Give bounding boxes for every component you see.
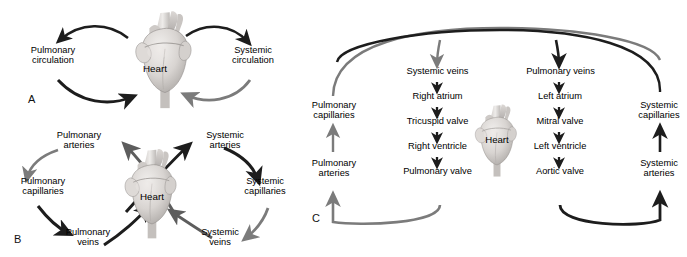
arrow-heart-to-systemic-circulation — [186, 27, 248, 42]
arrow-systemic-circulation-to-heart — [186, 80, 250, 100]
label-pulmonary-capillaries-b: Pulmonary capillaries — [0, 176, 86, 197]
label-aortic-valve: Aortic valve — [509, 166, 611, 176]
arc-pulmonary-capillaries-up — [333, 28, 660, 96]
label-pulmonary-veins-c: Pulmonary veins — [508, 66, 613, 76]
label-pulmonary-circulation: Pulmonary circulation — [8, 45, 98, 66]
heart-label-a: Heart — [125, 64, 185, 74]
label-systemic-arteries-b: Systemic arteries — [184, 130, 266, 151]
arrow-heart-to-pulmonary-arteries — [126, 146, 176, 216]
circulation-figure: A Pulmonary circulation Systemic circula… — [0, 0, 687, 257]
label-systemic-circulation: Systemic circulation — [208, 45, 298, 66]
label-systemic-capillaries-c: Systemic capillaries — [617, 100, 687, 121]
arrow-heart-to-pulmonary-circulation — [60, 26, 128, 40]
heart-label-c: Heart — [470, 135, 524, 145]
panel-letter-b: B — [14, 233, 21, 245]
arrow-pulmonary-arteries-to-capillaries — [27, 150, 58, 178]
panel-letter-a: A — [28, 93, 35, 105]
label-systemic-veins-b: Systemic veins — [180, 227, 260, 248]
label-pulmonary-arteries-c: Pulmonary arteries — [292, 158, 376, 179]
label-tricuspid-valve: Tricuspid valve — [381, 116, 494, 126]
heart-label-b: Heart — [122, 192, 182, 202]
label-pulmonary-arteries-b: Pulmonary arteries — [38, 130, 120, 151]
label-pulmonary-veins-b: Pulmonary veins — [48, 227, 128, 248]
arrow-into-systemic-veins — [437, 40, 440, 64]
arc-aortic-valve-to-systemic-arteries — [560, 196, 660, 224]
heart-illustration-a — [136, 11, 191, 108]
label-left-atrium: Left atrium — [510, 91, 610, 101]
arc-systemic-capillaries-up — [337, 30, 660, 92]
arc-pulmonary-valve-to-arteries — [333, 196, 440, 224]
label-right-atrium: Right atrium — [385, 91, 490, 101]
arrow-pulmonary-circulation-to-heart — [58, 80, 132, 102]
label-mitral-valve: Mitral valve — [510, 116, 610, 126]
label-systemic-veins-c: Systemic veins — [385, 66, 490, 76]
label-systemic-capillaries-b: Systemic capillaries — [222, 176, 308, 197]
arrow-into-pulmonary-veins — [556, 40, 559, 64]
label-pulmonary-valve: Pulmonary valve — [379, 166, 496, 176]
label-systemic-arteries-c: Systemic arteries — [617, 158, 687, 179]
label-pulmonary-capillaries-c: Pulmonary capillaries — [292, 100, 376, 121]
figure-arrow-layer — [0, 0, 687, 257]
panel-letter-c: C — [312, 212, 320, 224]
